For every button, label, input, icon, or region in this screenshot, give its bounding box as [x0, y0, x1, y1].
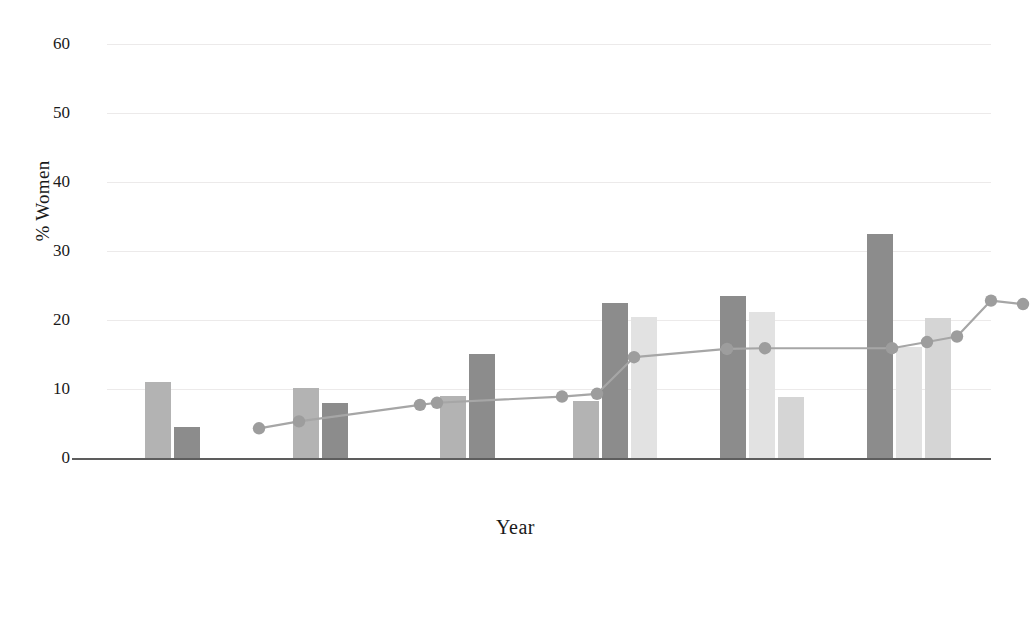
y-tick-label: 60 [24, 35, 70, 52]
trend-marker [951, 330, 963, 342]
chart-container: % Women Year 0102030405060 [0, 0, 1031, 633]
y-tick-label: 30 [24, 242, 70, 259]
overlay-line-series [107, 30, 991, 458]
y-tick-label: 0 [24, 449, 70, 466]
trend-marker [628, 351, 640, 363]
trend-marker [253, 422, 265, 434]
trend-marker [591, 388, 603, 400]
trend-marker [721, 343, 733, 355]
trend-marker [921, 336, 933, 348]
y-tick-label: 40 [24, 173, 70, 190]
trend-marker [431, 397, 443, 409]
trend-marker [759, 342, 771, 354]
x-axis-title: Year [0, 516, 1031, 539]
trend-marker [414, 399, 426, 411]
trend-line [259, 301, 1023, 429]
trend-marker [556, 390, 568, 402]
trend-marker [886, 342, 898, 354]
y-tick-label: 10 [24, 380, 70, 397]
trend-marker [1017, 298, 1029, 310]
y-tick-label: 50 [24, 104, 70, 121]
y-tick-label: 20 [24, 311, 70, 328]
trend-marker [293, 415, 305, 427]
x-axis-category-band [107, 460, 991, 508]
trend-marker [985, 294, 997, 306]
